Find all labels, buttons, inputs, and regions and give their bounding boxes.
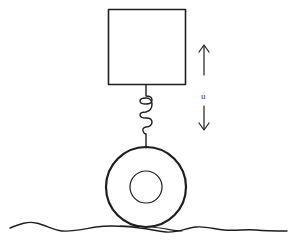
- spring: [140, 85, 152, 148]
- wheel-hub: [130, 171, 162, 203]
- quarter-car-diagram: u: [0, 0, 297, 242]
- mass-box: [109, 10, 186, 85]
- displacement-arrow: u: [199, 45, 209, 130]
- displacement-label: u: [201, 91, 206, 101]
- wheel: [106, 147, 186, 227]
- tire-outer: [106, 147, 186, 227]
